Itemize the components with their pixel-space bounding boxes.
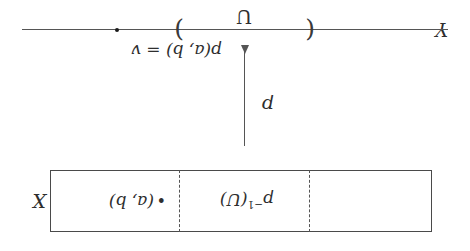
domain-point-marker: • xyxy=(157,191,166,207)
preimage-argument: (U) xyxy=(220,190,248,210)
preimage-exponent: −1 xyxy=(248,199,264,211)
domain-point-label: (a, b) xyxy=(109,193,154,210)
interval-open-paren: ( xyxy=(305,18,315,43)
domain-axis-label: X xyxy=(32,191,46,210)
map-arrow-head xyxy=(241,45,249,54)
interval-close-paren: ) xyxy=(174,18,184,43)
map-arrow-shaft xyxy=(244,49,245,146)
preimage-label: p−1(U) xyxy=(220,191,274,210)
interval-label: U xyxy=(236,7,252,26)
figure-stage: Y p(a, b) = v ( ) U p X p−1(U) • (a, b) xyxy=(0,0,470,251)
codomain-line xyxy=(22,29,448,30)
domain-divider-left xyxy=(309,170,310,232)
preimage-base: p xyxy=(263,190,274,210)
map-arrow-label: p xyxy=(262,96,274,115)
domain-divider-right xyxy=(179,170,180,232)
math-figure: Y p(a, b) = v ( ) U p X p−1(U) • (a, b) xyxy=(0,0,470,251)
codomain-point-marker xyxy=(115,28,119,32)
